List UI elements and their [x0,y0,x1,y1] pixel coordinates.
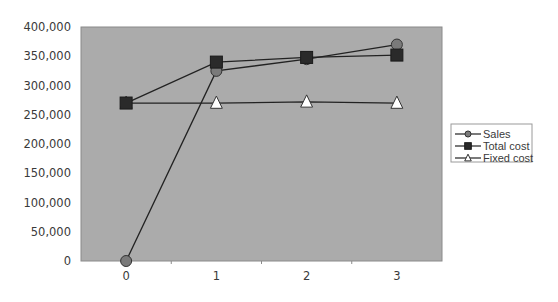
x-tick-label: 0 [122,269,129,283]
plot-area [81,27,442,261]
circle-marker-icon [465,131,471,137]
x-tick-label: 3 [393,269,400,283]
x-tick-label: 1 [213,269,220,283]
circle-marker-icon [121,256,132,267]
square-marker-icon [120,97,132,109]
x-tick-label: 2 [303,269,310,283]
y-tick-label: 250,000 [23,108,71,122]
y-tick-label: 50,000 [31,225,71,239]
y-tick-label: 150,000 [23,166,71,180]
y-tick-label: 300,000 [23,79,71,93]
line-chart: 050,000100,000150,000200,000250,000300,0… [0,0,558,302]
square-marker-icon [301,51,313,63]
legend-label: Total cost [483,140,529,152]
y-tick-label: 350,000 [23,49,71,63]
legend-label: Fixed cost [483,152,533,164]
square-marker-icon [210,56,222,68]
square-marker-icon [465,143,472,150]
y-tick-label: 200,000 [23,137,71,151]
square-marker-icon [391,49,403,61]
legend: SalesTotal costFixed cost [451,124,533,164]
legend-label: Sales [483,128,511,140]
circle-marker-icon [391,39,402,50]
y-tick-label: 0 [64,254,71,268]
y-tick-label: 400,000 [23,20,71,34]
x-axis: 0123 [122,261,400,283]
y-tick-label: 100,000 [23,196,71,210]
y-axis: 050,000100,000150,000200,000250,000300,0… [23,20,71,268]
